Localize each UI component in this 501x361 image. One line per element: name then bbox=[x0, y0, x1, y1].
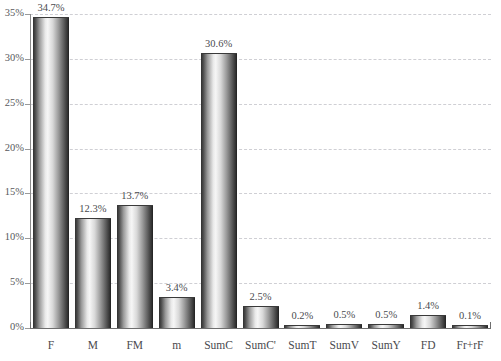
y-tick-label: 10% bbox=[0, 231, 24, 242]
x-axis-category-label: F bbox=[48, 339, 54, 351]
y-tick-label: 0% bbox=[0, 321, 24, 332]
x-axis-category-label: SumT bbox=[288, 339, 316, 351]
y-tick-label: 5% bbox=[0, 276, 24, 287]
y-tick-label: 25% bbox=[0, 97, 24, 108]
bar bbox=[159, 297, 195, 328]
bar bbox=[410, 315, 446, 328]
x-axis-category-label: M bbox=[88, 339, 98, 351]
y-tick-label: 30% bbox=[0, 52, 24, 63]
x-axis-category-label: FD bbox=[421, 339, 436, 351]
y-tick-label: 35% bbox=[0, 7, 24, 18]
bar bbox=[201, 53, 237, 328]
bar-value-label: 30.6% bbox=[205, 38, 232, 49]
bar-value-label: 0.5% bbox=[375, 309, 397, 320]
bar-value-label: 34.7% bbox=[37, 2, 64, 13]
bar bbox=[117, 205, 153, 328]
bar-value-label: 0.5% bbox=[333, 309, 355, 320]
x-axis-left-cap bbox=[30, 322, 31, 329]
x-axis-line bbox=[30, 328, 491, 329]
x-axis-category-label: m bbox=[172, 339, 181, 351]
x-axis-category-label: SumC bbox=[204, 339, 233, 351]
gridline bbox=[30, 59, 491, 60]
bar bbox=[284, 325, 320, 328]
bar-value-label: 13.7% bbox=[121, 190, 148, 201]
bar-value-label: 2.5% bbox=[250, 291, 272, 302]
x-axis-category-label: FM bbox=[126, 339, 143, 351]
x-axis-category-label: SumY bbox=[372, 339, 401, 351]
bar bbox=[243, 306, 279, 328]
bar bbox=[368, 324, 404, 328]
bar-value-label: 3.4% bbox=[166, 282, 188, 293]
bar-value-label: 0.1% bbox=[459, 310, 481, 321]
gridline bbox=[30, 149, 491, 150]
bar bbox=[33, 17, 69, 328]
bar bbox=[452, 325, 488, 328]
x-axis-category-label: SumC' bbox=[245, 339, 276, 351]
x-axis-category-label: Fr+rF bbox=[457, 339, 484, 351]
x-axis-right-cap bbox=[490, 322, 491, 329]
y-tick-label: 15% bbox=[0, 186, 24, 197]
bar-value-label: 12.3% bbox=[79, 203, 106, 214]
y-tick-label: 20% bbox=[0, 142, 24, 153]
bar bbox=[326, 324, 362, 328]
bar-value-label: 1.4% bbox=[417, 300, 439, 311]
y-axis-line bbox=[30, 14, 31, 329]
x-axis-category-label: SumV bbox=[330, 339, 359, 351]
gridline bbox=[30, 104, 491, 105]
gridline bbox=[30, 193, 491, 194]
bar bbox=[75, 218, 111, 328]
bar-value-label: 0.2% bbox=[291, 310, 313, 321]
gridline bbox=[30, 14, 491, 15]
bar-chart: 0%5%10%15%20%25%30%35% 34.7%F12.3%M13.7%… bbox=[0, 0, 501, 361]
